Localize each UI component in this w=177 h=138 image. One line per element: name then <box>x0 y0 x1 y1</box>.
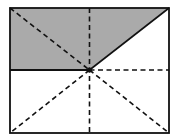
dashed-diagonal-bottom-right <box>90 70 170 133</box>
center-point <box>87 68 92 73</box>
diagram-canvas <box>0 0 177 138</box>
dashed-diagonal-bottom-left <box>10 70 90 133</box>
